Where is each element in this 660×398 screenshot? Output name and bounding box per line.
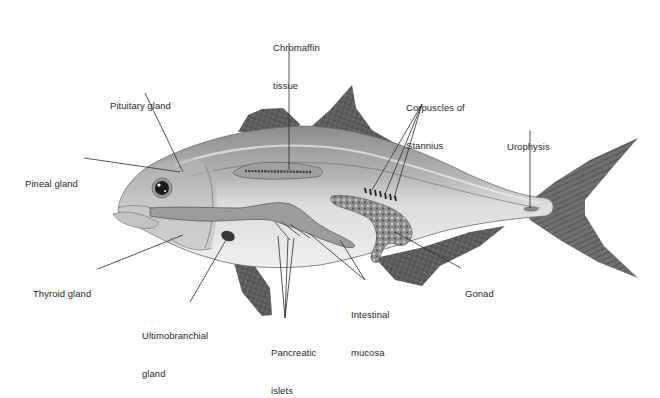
label-intestinal-mucosa: Intestinal mucosa: [351, 284, 390, 384]
label-ultimobranchial-gland: Ultimobranchial gland: [142, 305, 208, 398]
label-line: Corpuscles of: [406, 102, 465, 115]
label-corpuscles-of-stannius: Corpuscles of Stannius: [406, 77, 465, 177]
label-line: Intestinal: [351, 309, 390, 322]
label-gonad: Gonad: [465, 263, 494, 326]
label-line: Pituitary gland: [110, 100, 171, 113]
label-line: Pineal gland: [25, 178, 78, 191]
label-line: islets: [271, 385, 316, 398]
label-line: Urophysis: [507, 141, 550, 154]
label-line: Chromaffin: [273, 42, 320, 55]
label-pineal-gland: Pineal gland: [25, 153, 78, 216]
label-line: Thyroid gland: [33, 288, 91, 301]
label-line: mucosa: [351, 347, 390, 360]
label-line: Stannius: [406, 140, 465, 153]
label-urophysis: Urophysis: [507, 116, 550, 179]
label-pituitary-gland: Pituitary gland: [110, 75, 171, 138]
label-line: gland: [142, 368, 208, 381]
label-line: Pancreatic: [271, 347, 316, 360]
urophysis-organ: [524, 207, 538, 211]
label-line: Ultimobranchial: [142, 330, 208, 343]
label-line: tissue: [273, 80, 320, 93]
fish-head: [113, 159, 217, 251]
label-pancreatic-islets: Pancreatic islets: [271, 322, 316, 398]
label-line: Gonad: [465, 288, 494, 301]
label-thyroid-gland: Thyroid gland: [33, 263, 91, 326]
label-chromaffin-tissue: Chromaffin tissue: [273, 17, 320, 117]
